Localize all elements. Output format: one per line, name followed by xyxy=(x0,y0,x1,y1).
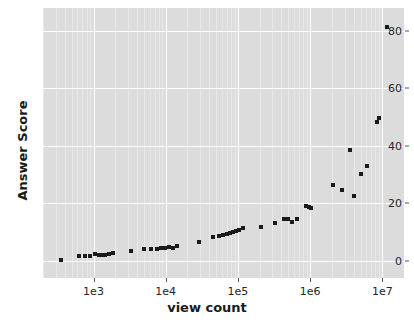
x-axis-label: view count xyxy=(0,300,414,315)
data-point-marker xyxy=(111,251,115,255)
data-point-marker xyxy=(77,254,81,258)
gridline-minor-vertical xyxy=(303,8,304,278)
data-point-marker xyxy=(359,172,363,176)
gridline-minor-vertical xyxy=(288,8,289,278)
gridline-minor-vertical xyxy=(294,8,295,278)
data-point-marker xyxy=(88,254,92,258)
gridline-minor-vertical xyxy=(366,8,367,278)
x-tick-label: 1e4 xyxy=(155,285,176,298)
plot-area xyxy=(43,8,404,278)
data-point-marker xyxy=(340,188,344,192)
gridline-minor-vertical xyxy=(56,8,57,278)
data-point-marker xyxy=(348,148,352,152)
data-point-marker xyxy=(331,183,335,187)
gridline-minor-vertical xyxy=(162,8,163,278)
data-point-marker xyxy=(217,234,221,238)
data-point-marker xyxy=(83,254,87,258)
gridline-minor-vertical xyxy=(375,8,376,278)
gridline-major-vertical xyxy=(310,8,311,278)
gridline-minor-vertical xyxy=(150,8,151,278)
data-point-marker xyxy=(309,206,313,210)
data-point-marker xyxy=(59,258,63,262)
x-tick-label: 1e5 xyxy=(228,285,249,298)
y-axis-label: Answer Score xyxy=(15,71,30,231)
gridline-minor-vertical xyxy=(281,8,282,278)
x-tick-mark xyxy=(94,278,95,282)
gridline-major-vertical xyxy=(382,8,383,278)
y-tick-mark xyxy=(405,145,409,146)
data-point-marker xyxy=(377,116,381,120)
data-point-marker xyxy=(259,225,263,229)
data-point-marker xyxy=(149,247,153,251)
x-tick-label: 1e6 xyxy=(300,285,321,298)
gridline-minor-vertical xyxy=(379,8,380,278)
gridline-minor-vertical xyxy=(371,8,372,278)
y-tick-label: 0 xyxy=(395,254,402,267)
gridline-major-horizontal xyxy=(43,203,404,204)
gridline-minor-vertical xyxy=(299,8,300,278)
gridline-minor-vertical xyxy=(144,8,145,278)
gridline-minor-vertical xyxy=(307,8,308,278)
data-point-marker xyxy=(295,217,299,221)
x-tick-mark xyxy=(166,278,167,282)
gridline-minor-vertical xyxy=(345,8,346,278)
y-tick-mark xyxy=(405,31,409,32)
x-tick-label: 1e7 xyxy=(372,285,393,298)
data-point-marker xyxy=(129,249,133,253)
gridline-major-horizontal xyxy=(43,31,404,32)
gridline-minor-vertical xyxy=(87,8,88,278)
data-point-marker xyxy=(365,164,369,168)
data-point-marker xyxy=(375,120,379,124)
y-tick-label: 20 xyxy=(388,197,402,210)
gridline-minor-vertical xyxy=(115,8,116,278)
data-point-marker xyxy=(290,220,294,224)
gridline-major-vertical xyxy=(238,8,239,278)
gridline-major-vertical xyxy=(166,8,167,278)
data-point-marker xyxy=(211,235,215,239)
gridline-minor-vertical xyxy=(137,8,138,278)
x-tick-mark xyxy=(382,278,383,282)
data-point-marker xyxy=(142,247,146,251)
gridline-minor-vertical xyxy=(65,8,66,278)
data-point-marker xyxy=(241,226,245,230)
data-point-marker xyxy=(175,244,179,248)
data-point-marker xyxy=(171,246,175,250)
gridline-minor-vertical xyxy=(155,8,156,278)
gridline-minor-vertical xyxy=(332,8,333,278)
gridline-minor-vertical xyxy=(272,8,273,278)
gridline-minor-vertical xyxy=(231,8,232,278)
y-tick-label: 60 xyxy=(388,82,402,95)
gridline-minor-vertical xyxy=(235,8,236,278)
data-point-marker xyxy=(197,240,201,244)
gridline-minor-vertical xyxy=(72,8,73,278)
y-tick-label: 40 xyxy=(388,139,402,152)
x-tick-mark xyxy=(238,278,239,282)
gridline-minor-vertical xyxy=(128,8,129,278)
y-tick-mark xyxy=(405,203,409,204)
gridline-minor-vertical xyxy=(90,8,91,278)
gridline-minor-vertical xyxy=(77,8,78,278)
gridline-minor-vertical xyxy=(227,8,228,278)
gridline-minor-vertical xyxy=(159,8,160,278)
y-tick-label: 80 xyxy=(388,25,402,38)
x-tick-label: 1e3 xyxy=(83,285,104,298)
data-point-marker xyxy=(352,194,356,198)
scatter-plot-figure: 020406080 1e31e41e51e61e7 view count Ans… xyxy=(0,0,414,322)
gridline-minor-vertical xyxy=(260,8,261,278)
gridline-major-horizontal xyxy=(43,261,404,262)
y-tick-mark xyxy=(405,260,409,261)
gridline-minor-vertical xyxy=(82,8,83,278)
gridline-minor-vertical xyxy=(361,8,362,278)
data-point-marker xyxy=(273,221,277,225)
gridline-major-horizontal xyxy=(43,88,404,89)
gridline-major-vertical xyxy=(94,8,95,278)
gridline-minor-vertical xyxy=(200,8,201,278)
gridline-minor-vertical xyxy=(354,8,355,278)
gridline-minor-vertical xyxy=(222,8,223,278)
y-tick-mark xyxy=(405,88,409,89)
x-tick-mark xyxy=(310,278,311,282)
gridline-minor-vertical xyxy=(187,8,188,278)
gridline-minor-vertical xyxy=(43,8,44,278)
